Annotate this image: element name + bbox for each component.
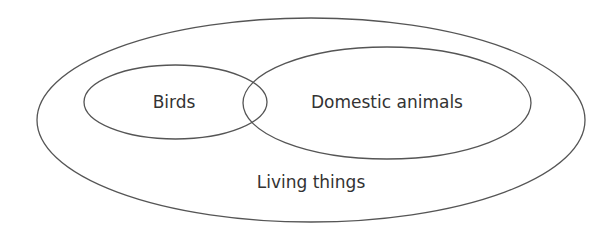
living-things-label: Living things [257, 172, 366, 192]
birds-label: Birds [153, 92, 196, 112]
domestic-animals-label: Domestic animals [311, 92, 463, 112]
venn-diagram: Living things Birds Domestic animals [0, 0, 615, 227]
